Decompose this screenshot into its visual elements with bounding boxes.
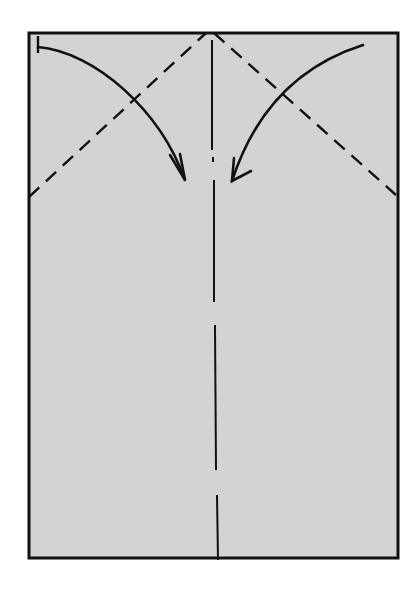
origami-diagram [0, 0, 420, 593]
